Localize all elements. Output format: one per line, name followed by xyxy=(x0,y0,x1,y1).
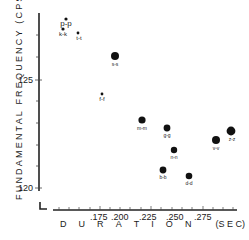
label-n-n: n-n xyxy=(170,154,177,160)
point-t-t xyxy=(77,32,80,35)
label-g-g: g-g xyxy=(163,132,170,138)
point-z-z xyxy=(227,127,236,136)
point-d-d xyxy=(186,173,193,180)
label-t-t: t-t xyxy=(76,35,82,41)
label-m-m: m-m xyxy=(137,125,147,131)
data-points xyxy=(61,17,235,179)
y-tick-125: 125 xyxy=(18,75,33,85)
axis-corner xyxy=(40,202,47,209)
point-f-f xyxy=(101,93,104,96)
label-f-f: f-f xyxy=(99,96,105,102)
label-k-k: k-k xyxy=(59,31,68,37)
point-n-n xyxy=(171,147,177,153)
x-axis-label: D U R A T I O N (S E C) xyxy=(60,219,245,229)
label-b-b: b-b xyxy=(159,174,166,180)
label-z-z: z-z xyxy=(229,136,236,142)
point-b-b xyxy=(160,167,167,174)
label-p-p: p-p xyxy=(60,19,72,28)
scatter-plot: p-p k-k t-t s-s f-f m-m g-g n-n b-b d-d … xyxy=(0,0,249,240)
point-s-s xyxy=(111,52,119,60)
point-v-v xyxy=(212,136,220,144)
point-m-m xyxy=(138,116,145,123)
label-v-v: v-v xyxy=(213,145,220,151)
label-d-d: d-d xyxy=(185,180,192,186)
point-g-g xyxy=(164,125,171,132)
y-tick-120: 120 xyxy=(18,183,33,193)
label-s-s: s-s xyxy=(112,61,119,67)
